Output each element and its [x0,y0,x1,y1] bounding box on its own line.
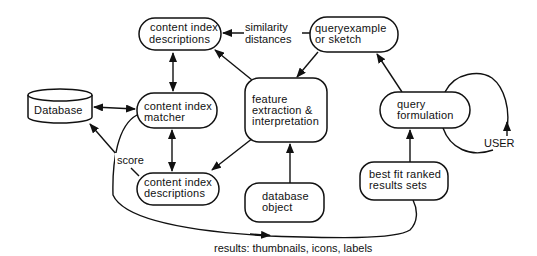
label-similarity-distances: similarity distances [244,21,302,47]
node-label: formulation [397,109,454,121]
edge-label: score [117,154,144,166]
node-content-index-descriptions-top: content index descriptions [139,18,221,50]
node-content-index-descriptions-bottom: content index descriptions [137,173,219,205]
edge-label: distances [245,33,292,45]
diagram-canvas: content index descriptions similarity di… [0,0,537,256]
edge-formulation-to-query [377,54,402,92]
edge-score-tail [131,168,139,176]
node-feature-extraction: feature extraction & interpretation [245,78,327,142]
node-label: content index [150,21,218,33]
edge-database-matcher [94,107,135,109]
edge-feature-to-cid-bottom [212,138,253,170]
node-label: results sets [369,179,427,191]
node-label: interpretation [252,115,319,127]
label-user: USER [482,136,515,149]
edge-label: similarity [245,21,288,33]
node-label: descriptions [149,33,210,45]
node-content-index-matcher: content index matcher [137,93,217,128]
edge-score-to-database [90,124,117,155]
node-label: Database [34,104,83,116]
node-query-example: queryexample or sketch [310,17,398,52]
node-query-formulation: query formulation [380,92,470,128]
node-database: Database [28,89,92,123]
node-label: object [262,201,293,213]
edge-feature-to-cid-top [215,50,252,80]
node-label: or sketch [315,33,361,45]
node-label: descriptions [144,187,205,199]
node-database-object: database object [245,183,324,222]
edge-label: USER [484,137,515,149]
node-label: matcher [144,111,185,123]
edge-query-to-feature [297,52,318,77]
label-score: score [115,153,147,166]
label-results: results: thumbnails, icons, labels [214,242,373,254]
node-best-fit-results: best fit ranked results sets [360,162,448,200]
